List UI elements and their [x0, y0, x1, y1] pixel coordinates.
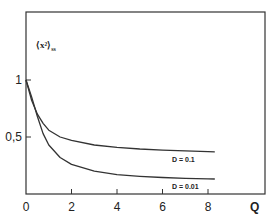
y-axis-label-sub: ss: [51, 46, 56, 52]
curve-label: D = 0.1: [172, 156, 195, 163]
plot-frame: [26, 12, 265, 194]
curve-labels: D = 0.1D = 0.01: [172, 156, 199, 190]
y-axis-label-main: ⟨x²⟩: [36, 40, 51, 50]
curve-d-0-1: [26, 80, 215, 152]
curve-label: D = 0.01: [172, 183, 199, 190]
curve-d-0-01: [26, 80, 215, 179]
y-tick-label: 1: [15, 73, 22, 87]
x-tick-label: 0: [23, 200, 30, 214]
x-tick-label: 4: [114, 200, 121, 214]
x-tick-label: 8: [205, 200, 212, 214]
x-tick-label: 6: [159, 200, 166, 214]
x-axis-ticks: 02468: [23, 189, 212, 214]
curves: [26, 80, 215, 179]
chart-canvas: 02468 0,51 D = 0.1D = 0.01 Q ⟨x²⟩ss: [0, 0, 272, 217]
y-tick-label: 0,5: [5, 130, 22, 144]
x-tick-label: 2: [68, 200, 75, 214]
y-axis-label: ⟨x²⟩ss: [36, 40, 57, 52]
x-axis-label: Q: [250, 200, 259, 214]
